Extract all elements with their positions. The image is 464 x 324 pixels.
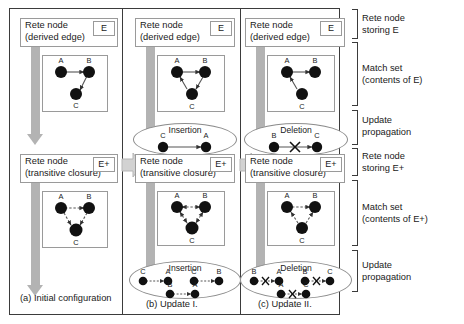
caption-b: (b) Update I.: [146, 299, 198, 309]
graph-b-top: A B C: [158, 56, 226, 113]
graph-node-C: [296, 88, 308, 100]
graph-label-C: C: [189, 236, 195, 245]
graph-b-bottom: A B C: [158, 192, 226, 247]
panel-b: Rete node(derived edge) E A B C: [124, 8, 240, 315]
delta-node-B1: [250, 277, 259, 286]
delta-node-C3: [302, 290, 311, 299]
graph-label-C: C: [73, 238, 79, 247]
bracket-update-prop-2: [352, 250, 358, 292]
edge-b-bot-AC-bi: [180, 212, 187, 223]
graph-label-C: C: [299, 236, 305, 245]
graph-label-B: B: [313, 191, 318, 200]
graph-node-C: [186, 222, 199, 235]
graph-label-A: A: [175, 56, 180, 65]
delta-node-label-A: A: [204, 131, 209, 140]
update-arrow-c-bottom: [256, 173, 265, 274]
delta-node-label-C: C: [160, 131, 166, 140]
graph-node-A: [171, 66, 183, 78]
legend-match-set-e: Match set(contents of E): [362, 62, 422, 86]
edge-a-top-BC: [80, 76, 87, 90]
rete-node-tag-b-top: E: [210, 21, 232, 36]
delta-node-label-B3: B: [168, 280, 173, 289]
graph-node-B: [309, 66, 321, 78]
delta-node-label-A3: A: [193, 280, 198, 289]
delta-node-label-B: B: [272, 131, 277, 140]
delta-graph-b-bottom: C A C B B A: [130, 262, 242, 300]
graph-node-C: [70, 88, 82, 100]
delta-node-C1: [139, 277, 148, 286]
delta-node-B: [269, 142, 279, 152]
rete-node-title-b-top: Rete node(derived edge): [140, 20, 200, 43]
graph-label-B: B: [87, 192, 92, 201]
graph-node-B: [83, 66, 95, 78]
delta-node-label-B2: B: [217, 267, 222, 276]
panel-a: Rete node(derived edge) E A B C: [9, 8, 122, 315]
delta-node-label-B1: B: [252, 267, 257, 276]
rete-node-title-c-top: Rete node(derived edge): [250, 20, 310, 43]
rete-node-box-b-bottom[interactable]: Rete node(transitive closure) E+: [135, 154, 235, 183]
delta-node-A3: [191, 290, 200, 299]
graph-label-B: B: [313, 56, 318, 65]
rete-node-box-c-top[interactable]: Rete node(derived edge) E: [245, 18, 345, 47]
rete-node-box-a-bottom[interactable]: Rete node(transitive closure) E+: [20, 154, 118, 183]
edge-c-top-CA: [290, 77, 297, 89]
delta-node-A: [201, 142, 211, 152]
graph-node-A: [55, 202, 67, 214]
graph-label-C: C: [189, 102, 195, 111]
graph-label-B: B: [87, 56, 92, 65]
delta-node-B2: [215, 277, 224, 286]
match-set-box-c-top: A B C: [267, 55, 335, 112]
delta-graph-b-top: C A: [134, 124, 238, 157]
update-arrow-a-top-head: [27, 134, 43, 145]
delta-node-A3: [277, 290, 286, 299]
update-arrow-c-top: [256, 38, 265, 135]
caption-c: (c) Update II.: [258, 299, 312, 309]
rete-node-tag-c-top: E: [320, 21, 342, 36]
legend-update-prop-2: Updatepropagation: [362, 259, 411, 283]
graph-node-C: [296, 222, 308, 234]
delta-node-C: [158, 142, 168, 152]
rete-node-title-a-bottom: Rete node(transitive closure): [25, 156, 101, 179]
graph-node-B: [199, 66, 211, 78]
edge-b-bot-BC-bi: [196, 212, 203, 223]
rete-node-tag-c-bottom: E+: [320, 157, 342, 172]
rete-node-box-a-top[interactable]: Rete node(derived edge) E: [20, 18, 118, 47]
rete-node-box-c-bottom[interactable]: Rete node(transitive closure) E+: [245, 154, 345, 183]
update-arrow-a-bottom: [31, 173, 40, 286]
graph-node-B: [83, 202, 95, 214]
graph-node-A: [171, 201, 183, 213]
edge-b-top-CA: [180, 77, 187, 89]
delta-node-label-A1: A: [166, 267, 171, 276]
delta-ellipse-b-bottom: Insertion C A C B: [129, 261, 241, 299]
graph-a-bottom: A B C: [43, 192, 109, 249]
rete-node-tag-a-top: E: [93, 21, 115, 36]
graph-a-top: A B C: [43, 56, 109, 113]
graph-label-A: A: [59, 192, 64, 201]
graph-label-B: B: [203, 191, 208, 200]
graph-node-A: [281, 66, 293, 78]
graph-c-top: A B C: [268, 56, 336, 113]
graph-c-bottom: A B C: [268, 192, 336, 247]
bracket-rete-node-e: [352, 9, 358, 39]
graph-label-A: A: [175, 191, 180, 200]
bracket-match-set-e: [352, 42, 358, 106]
delta-node-label-C1: C: [140, 267, 146, 276]
rete-node-box-b-top[interactable]: Rete node(derived edge) E: [135, 18, 235, 47]
edge-c-bot-CB: [306, 212, 313, 223]
update-arrow-a-top: [31, 38, 40, 135]
rete-node-title-b-bottom: Rete node(transitive closure): [140, 156, 216, 179]
graph-node-B: [309, 201, 321, 213]
match-set-box-a-bottom: A B C: [42, 191, 108, 248]
rete-node-tag-a-bottom: E+: [93, 157, 115, 172]
delta-node-B3: [166, 290, 175, 299]
delta-node-label-B2: B: [303, 267, 308, 276]
graph-label-B: B: [203, 56, 208, 65]
edge-a-bot-AC: [64, 213, 71, 225]
graph-node-C: [186, 88, 198, 100]
graph-label-A: A: [285, 56, 290, 65]
bracket-rete-node-ep: [352, 148, 358, 176]
caption-a: (a) Initial configuration: [20, 293, 111, 303]
graph-node-A: [281, 201, 293, 213]
delta-node-C: [312, 142, 322, 152]
figure-root: Rete node(derived edge) E A B C: [0, 0, 464, 324]
